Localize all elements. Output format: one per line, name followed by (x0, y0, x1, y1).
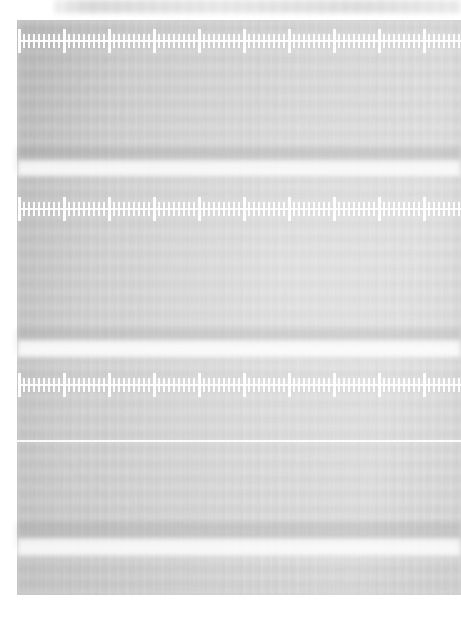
top-edge-strip (55, 0, 461, 13)
top-edge-strip-texture (55, 0, 461, 13)
vignette-layer (17, 20, 461, 595)
bottom-caption (20, 592, 440, 616)
document-sheet (17, 20, 461, 595)
scanned-page-canvas (0, 0, 461, 618)
